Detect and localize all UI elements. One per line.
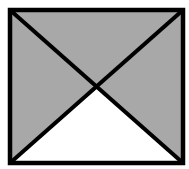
diagram-canvas xyxy=(0,0,189,169)
